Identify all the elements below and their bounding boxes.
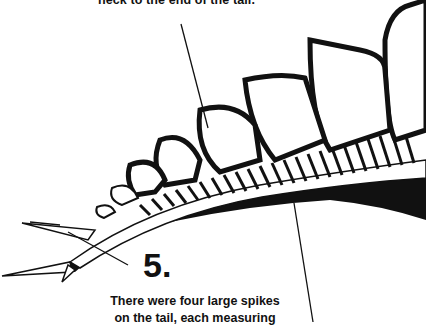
vertebra-band: [70, 160, 426, 268]
bottom-caption: There were four large spikes on the tail…: [100, 293, 290, 327]
stegosaurus-tail-illustration: [0, 0, 426, 329]
bottom-caption-line: on the tail, each measuring: [100, 310, 290, 327]
bottom-caption-line: There were four large spikes: [100, 293, 290, 310]
callout-number: 5.: [143, 248, 171, 282]
tail-spikes: [2, 222, 95, 282]
